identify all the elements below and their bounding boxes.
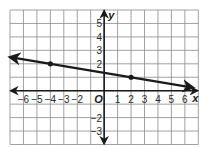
x-tick-label: −3 — [58, 94, 70, 105]
x-tick-label: 2 — [128, 94, 134, 105]
data-point — [128, 75, 133, 80]
origin-label: O — [94, 93, 103, 105]
x-tick-label: −2 — [72, 94, 84, 105]
y-axis-label: y — [107, 9, 115, 21]
y-tick-label: −2 — [91, 113, 103, 124]
tick-labels: −6−5−4−3−21234565432−2−3 — [18, 18, 188, 137]
x-tick-label: 5 — [169, 94, 175, 105]
x-tick-label: 3 — [142, 94, 148, 105]
x-tick-label: −4 — [45, 94, 57, 105]
data-point — [48, 61, 53, 66]
x-tick-label: −6 — [18, 94, 30, 105]
x-axis-label: x — [191, 92, 199, 104]
x-tick-label: 4 — [155, 94, 161, 105]
y-tick-label: −3 — [91, 126, 103, 137]
x-tick-label: −5 — [31, 94, 43, 105]
y-tick-label: 5 — [97, 18, 103, 29]
x-tick-label: 1 — [115, 94, 121, 105]
x-tick-label: 6 — [182, 94, 188, 105]
y-tick-label: 4 — [97, 32, 103, 43]
y-tick-label: 3 — [97, 45, 103, 56]
y-tick-label: 2 — [97, 59, 103, 70]
coordinate-plane: −6−5−4−3−21234565432−2−3 x y O — [0, 0, 205, 148]
